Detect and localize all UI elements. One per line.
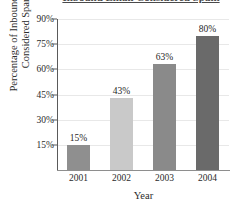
x-axis-tick-label: 2004 bbox=[198, 173, 217, 183]
y-axis-tickmark bbox=[52, 144, 57, 145]
chart-title-clipped: Inbound Email Considered Spam bbox=[52, 0, 230, 6]
y-axis-tickmark bbox=[52, 44, 57, 45]
y-axis-tick-labels: 15%30%45%60%75%90% bbox=[24, 14, 54, 170]
chart-title-text: Inbound Email Considered Spam bbox=[52, 0, 230, 3]
bar-value-label: 63% bbox=[156, 52, 173, 62]
bar-value-label: 80% bbox=[199, 24, 216, 34]
y-axis-tickmark bbox=[52, 94, 57, 95]
x-axis-title: Year bbox=[57, 190, 230, 201]
bar bbox=[110, 98, 133, 170]
plot-area: 15%43%63%80% bbox=[57, 19, 229, 170]
bar bbox=[153, 64, 176, 170]
x-axis-tick-label: 2003 bbox=[155, 173, 174, 183]
bar bbox=[196, 36, 219, 170]
y-axis-tickmark bbox=[52, 119, 57, 120]
x-axis-tick-label: 2002 bbox=[112, 173, 131, 183]
y-axis-tickmark bbox=[52, 69, 57, 70]
y-axis-title-line1: Percentage of Inbound email bbox=[8, 0, 20, 92]
x-axis-tick-labels: 2001200220032004 bbox=[57, 173, 230, 186]
bar-chart: Inbound Email Considered Spam Percentage… bbox=[0, 0, 234, 215]
x-axis-line bbox=[57, 170, 230, 171]
gridline bbox=[57, 19, 229, 20]
y-axis-tickmark bbox=[52, 19, 57, 20]
bar-value-label: 43% bbox=[113, 86, 130, 96]
x-axis-tick-label: 2001 bbox=[69, 173, 88, 183]
y-axis-line bbox=[57, 19, 58, 171]
bar bbox=[67, 145, 90, 170]
bar-value-label: 15% bbox=[70, 133, 87, 143]
